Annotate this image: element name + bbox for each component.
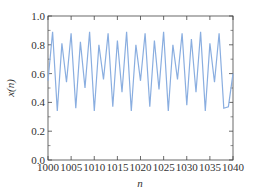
x-tick-label: 1035 bbox=[199, 161, 222, 173]
y-tick-label: 0.6 bbox=[31, 68, 45, 80]
line-chart: 0.00.20.40.60.81.0 100010051010101510201… bbox=[0, 0, 255, 192]
x-tick-label: 1030 bbox=[176, 161, 199, 173]
y-tick-label: 0.2 bbox=[31, 125, 45, 137]
x-tick-label: 1040 bbox=[222, 161, 245, 173]
series-line bbox=[48, 32, 233, 111]
x-tick-label: 1010 bbox=[83, 161, 106, 173]
plot-frame bbox=[48, 16, 233, 160]
x-axis-label: n bbox=[137, 177, 143, 189]
x-axis: 100010051010101510201025103010351040 bbox=[37, 16, 245, 173]
y-axis: 0.00.20.40.60.81.0 bbox=[31, 10, 233, 166]
y-tick-label: 0.4 bbox=[31, 96, 45, 108]
x-tick-label: 1015 bbox=[106, 161, 129, 173]
y-tick-label: 0.8 bbox=[31, 39, 45, 51]
y-tick-label: 1.0 bbox=[31, 10, 45, 22]
x-tick-label: 1005 bbox=[60, 161, 83, 173]
x-tick-label: 1020 bbox=[130, 161, 153, 173]
x-tick-label: 1025 bbox=[153, 161, 176, 173]
y-axis-label: x(n) bbox=[4, 79, 17, 98]
x-tick-label: 1000 bbox=[37, 161, 60, 173]
